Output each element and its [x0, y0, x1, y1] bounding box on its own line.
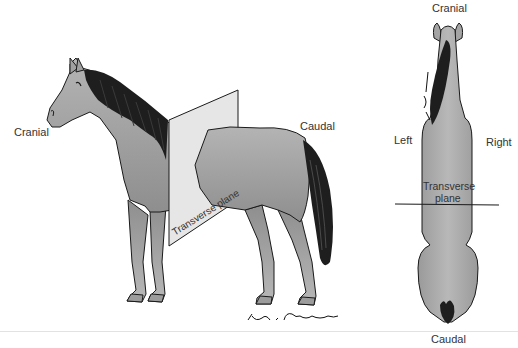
- signature-scribble: [248, 314, 338, 320]
- horse-illustrations: [0, 0, 518, 348]
- anatomical-planes-diagram: Cranial Caudal Transverse plane Cranial …: [0, 0, 518, 348]
- side-cranial-label: Cranial: [14, 126, 49, 138]
- horse-front-half: [47, 58, 172, 302]
- top-plane-label-line1: Transverse: [423, 180, 475, 192]
- horse-rear-half: [195, 127, 338, 320]
- top-right-label: Right: [486, 136, 512, 148]
- transverse-plane-line: [395, 204, 499, 205]
- top-plane-label-line2: plane: [435, 192, 461, 204]
- top-left-label: Left: [394, 134, 412, 146]
- horse-top-view: [395, 23, 499, 324]
- baseline-divider: [0, 331, 518, 332]
- side-caudal-label: Caudal: [300, 120, 335, 132]
- top-cranial-label: Cranial: [432, 2, 467, 14]
- top-caudal-label: Caudal: [428, 333, 469, 345]
